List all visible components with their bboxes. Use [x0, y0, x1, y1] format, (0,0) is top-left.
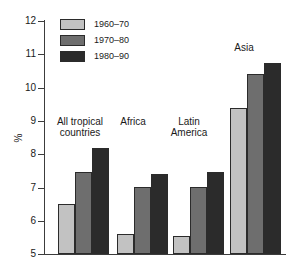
y-tick-label-8: 8: [6, 149, 36, 159]
bar-asia-1960-70: [230, 108, 247, 254]
y-tick-7: [38, 188, 44, 189]
bar-latin-america-1960-70: [173, 236, 190, 254]
y-tick-label-9: 9: [6, 116, 36, 126]
y-tick-8: [38, 154, 44, 155]
y-tick-10: [38, 88, 44, 89]
bar-asia-1970-80: [247, 74, 264, 254]
group-label-latin-america: Latin America: [160, 116, 218, 138]
bar-all-tropical-countries-1970-80: [75, 172, 92, 254]
y-tick-label-11: 11: [6, 49, 36, 59]
group-label-asia: Asia: [215, 42, 273, 53]
y-tick-label-12: 12: [6, 16, 36, 26]
y-tick-label-5: 5: [6, 249, 36, 259]
bar-africa-1970-80: [134, 187, 151, 254]
group-label-all-tropical-countries: All tropical countries: [48, 116, 112, 138]
group-label-africa: Africa: [104, 116, 162, 127]
bar-latin-america-1970-80: [190, 187, 207, 254]
y-tick-5: [38, 254, 44, 255]
bar-asia-1980-90: [264, 63, 281, 254]
y-tick-11: [38, 54, 44, 55]
bar-chart: 12 11 10 9 8 7 6 5 % 1960–70 1970–80 198…: [0, 0, 298, 263]
bar-africa-1980-90: [151, 174, 168, 254]
bar-all-tropical-countries-1960-70: [58, 204, 75, 254]
y-tick-6: [38, 221, 44, 222]
y-tick-12: [38, 21, 44, 22]
y-axis-title: %: [14, 134, 24, 143]
x-axis-line: [44, 254, 286, 255]
y-tick-label-10: 10: [6, 83, 36, 93]
y-tick-label-7: 7: [6, 183, 36, 193]
y-tick-label-6: 6: [6, 216, 36, 226]
bar-africa-1960-70: [117, 234, 134, 254]
bar-latin-america-1980-90: [207, 172, 224, 254]
bar-all-tropical-countries-1980-90: [92, 148, 109, 255]
y-tick-9: [38, 121, 44, 122]
